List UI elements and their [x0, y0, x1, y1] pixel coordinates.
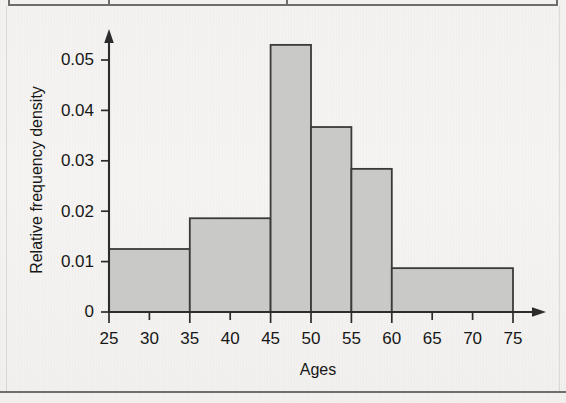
y-axis-ticks	[101, 60, 109, 312]
x-axis-tick-label: 35	[180, 329, 199, 348]
y-axis-title: Relative frequency density	[28, 86, 45, 274]
x-axis-title: Ages	[300, 361, 336, 378]
x-axis-tick-label: 55	[342, 329, 361, 348]
histogram-bar	[271, 45, 311, 312]
x-axis-tick-label: 70	[463, 329, 482, 348]
x-axis-tick-label: 40	[221, 329, 240, 348]
x-axis-tick-label: 65	[423, 329, 442, 348]
y-axis-tick-labels: 00.010.020.030.040.05	[61, 50, 94, 321]
histogram-svg: 00.010.020.030.040.05 253035404550556065…	[0, 0, 566, 403]
y-axis-tick-label: 0.04	[61, 101, 94, 120]
histogram-bar	[392, 268, 513, 312]
y-axis-arrowhead-icon	[104, 29, 114, 43]
x-axis-tick-label: 75	[504, 329, 523, 348]
y-axis-tick-label: 0	[85, 302, 94, 321]
histogram-bar	[190, 218, 271, 312]
x-axis-tick-label: 60	[382, 329, 401, 348]
histogram-chart: 00.010.020.030.040.05 253035404550556065…	[0, 0, 566, 403]
x-axis-ticks	[109, 312, 513, 323]
y-axis-tick-label: 0.02	[61, 202, 94, 221]
x-axis-arrowhead-icon	[532, 307, 546, 317]
y-axis-tick-label: 0.03	[61, 151, 94, 170]
x-axis-tick-label: 30	[140, 329, 159, 348]
y-axis-tick-label: 0.05	[61, 50, 94, 69]
y-axis-tick-label: 0.01	[61, 252, 94, 271]
histogram-bar	[109, 249, 190, 312]
bar-series	[109, 45, 513, 312]
histogram-bar	[311, 127, 351, 312]
histogram-bar	[351, 169, 391, 312]
x-axis-tick-label: 50	[302, 329, 321, 348]
x-axis-tick-labels: 2530354045505560657075	[100, 329, 523, 348]
x-axis-tick-label: 45	[261, 329, 280, 348]
x-axis-tick-label: 25	[100, 329, 119, 348]
